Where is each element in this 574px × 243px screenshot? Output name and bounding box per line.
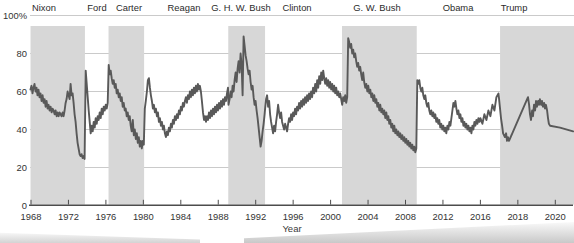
president-label-carter: Carter [116,2,142,13]
x-tick-label-2016: 2016 [470,211,491,222]
x-tick-label-2020: 2020 [545,211,566,222]
chart-background [0,0,574,243]
y-tick-label-100: 100% [3,10,27,21]
president-band-g-h-w-bush [228,26,265,205]
y-tick-label-20: 20 [17,162,27,173]
president-label-obama: Obama [443,2,475,13]
y-tick-label-40: 40 [17,124,27,135]
x-tick-label-1992: 1992 [245,211,266,222]
x-tick-label-2004: 2004 [358,211,379,222]
x-tick-label-2000: 2000 [320,211,341,222]
president-label-ford: Ford [87,2,106,13]
y-tick-label-80: 80 [17,48,27,59]
x-axis-title: Year [282,223,301,234]
president-label-clinton: Clinton [282,2,311,13]
x-tick-label-1968: 1968 [21,211,42,222]
x-tick-label-2008: 2008 [395,211,416,222]
x-tick-label-1984: 1984 [170,211,191,222]
president-band-trump [500,26,574,205]
approval-ratings-figure: 1968197219761980198419881992199620002004… [0,0,574,243]
president-label-reagan: Reagan [168,2,201,13]
x-tick-label-1996: 1996 [283,211,304,222]
x-tick-label-1988: 1988 [208,211,229,222]
y-tick-label-60: 60 [17,86,27,97]
approval-line-chart: 1968197219761980198419881992199620002004… [0,0,574,243]
x-tick-label-1976: 1976 [95,211,116,222]
x-tick-label-2012: 2012 [433,211,454,222]
president-label-g-h-w-bush: G. H. W. Bush [211,2,270,13]
y-tick-label-0: 0 [22,200,27,211]
x-tick-label-2018: 2018 [507,211,528,222]
x-tick-label-1972: 1972 [58,211,79,222]
x-tick-label-1980: 1980 [133,211,154,222]
president-label-g-w-bush: G. W. Bush [353,2,400,13]
president-label-nixon: Nixon [32,2,56,13]
president-label-trump: Trump [501,2,528,13]
